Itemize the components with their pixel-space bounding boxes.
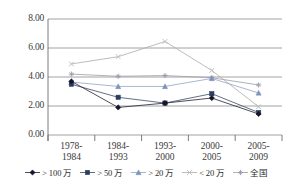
line-chart: 0.002.004.006.008.00 1978-19841984-19931… — [0, 0, 293, 188]
data-point-marker-diamond — [209, 95, 214, 100]
x-tick-label-line: 2009 — [233, 152, 285, 163]
x-tick-label-line: 2000 — [139, 152, 191, 163]
y-tick-label: 8.00 — [4, 13, 44, 23]
legend-marker-icon — [131, 168, 146, 177]
legend-label: > 20 万 — [148, 166, 174, 178]
x-tick-label: 1993-2000 — [139, 141, 191, 163]
data-point-marker-square — [116, 95, 120, 99]
legend-item-2[interactable]: > 50 万 — [80, 166, 123, 178]
x-tick-label-line: 1993- — [139, 141, 191, 152]
x-tick-label: 1984-1993 — [92, 141, 144, 163]
x-tick-label: 2005-2009 — [233, 141, 285, 163]
x-tick-label-line: 2005- — [233, 141, 285, 152]
legend-item-1[interactable]: > 100 万 — [25, 166, 72, 178]
data-point-marker-square — [86, 170, 90, 174]
legend-marker-icon — [182, 168, 197, 177]
legend-label: < 20 万 — [199, 166, 225, 178]
legend-marker-icon — [233, 168, 248, 177]
legend-label: 全国 — [250, 166, 268, 178]
y-tick-label: 6.00 — [4, 42, 44, 52]
legend-marker-icon — [80, 168, 95, 177]
data-point-marker-diamond — [30, 169, 35, 174]
legend-item-5[interactable]: 全国 — [233, 166, 268, 178]
x-tick-label-line: 2005 — [186, 152, 238, 163]
legend-item-4[interactable]: < 20 万 — [182, 166, 225, 178]
x-tick-label-line: 1984 — [45, 152, 97, 163]
x-tick-label-line: 1993 — [92, 152, 144, 163]
x-tick-label-line: 2000- — [186, 141, 238, 152]
x-tick-label-line: 1984- — [92, 141, 144, 152]
legend-item-3[interactable]: > 20 万 — [131, 166, 174, 178]
x-tick-label: 2000-2005 — [186, 141, 238, 163]
chart-legend: > 100 万> 50 万> 20 万< 20 万全国 — [0, 166, 293, 178]
y-tick-label: 4.00 — [4, 71, 44, 81]
x-tick-label: 1978-1984 — [45, 141, 97, 163]
series-3 — [69, 76, 261, 95]
x-tick-label-line: 1978- — [45, 141, 97, 152]
y-tick-label: 2.00 — [4, 100, 44, 110]
legend-label: > 100 万 — [42, 166, 72, 178]
y-tick-label: 0.00 — [4, 129, 44, 139]
legend-label: > 50 万 — [97, 166, 123, 178]
legend-marker-icon — [25, 168, 40, 177]
